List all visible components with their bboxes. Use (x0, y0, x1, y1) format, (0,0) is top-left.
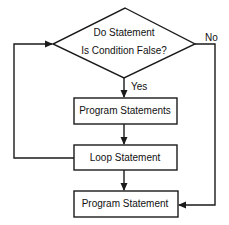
loop-statement-label: Loop Statement (90, 152, 161, 164)
decision-diamond (53, 8, 195, 78)
no-label: No (205, 32, 218, 44)
no-arrow (179, 44, 215, 205)
decision-text-line2: Is Condition False? (81, 45, 167, 57)
program-statements-label: Program Statements (79, 105, 171, 117)
program-statement-label: Program Statement (82, 198, 169, 210)
loop-back-arrow (14, 44, 74, 158)
decision-text-line1: Do Statement (93, 27, 154, 39)
yes-label: Yes (131, 81, 147, 93)
